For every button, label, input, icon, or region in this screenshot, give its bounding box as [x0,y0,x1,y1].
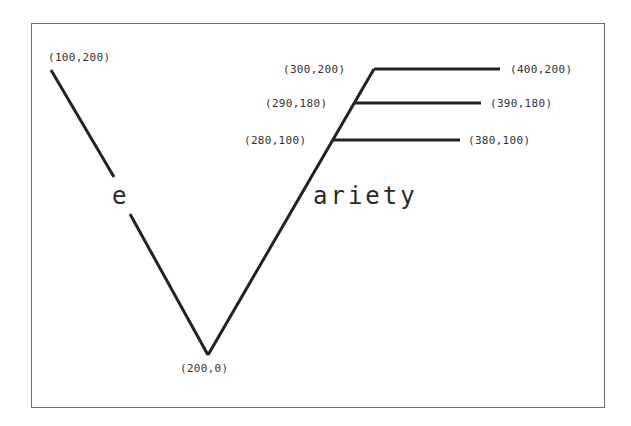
label-point-100-200: (100,200) [48,51,110,64]
label-point-200-0: (200,0) [180,362,228,375]
right-stroke [208,69,374,355]
label-point-290-180: (290,180) [265,97,327,110]
label-point-300-200: (300,200) [283,63,345,76]
left-stroke-upper [51,70,114,177]
left-stroke-lower [130,214,208,355]
letter-e: e [112,182,129,210]
word-ariety: ariety [313,182,418,210]
label-point-380-100: (380,100) [468,134,530,147]
label-point-280-100: (280,100) [244,134,306,147]
label-point-400-200: (400,200) [510,63,572,76]
label-point-390-180: (390,180) [490,97,552,110]
